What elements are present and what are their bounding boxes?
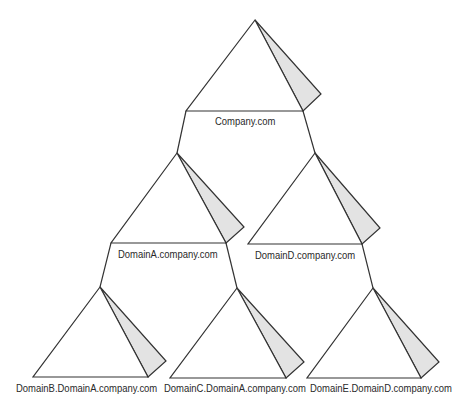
triangle-domainC	[170, 288, 304, 378]
label-domainC: DomainC.DomainA.company.com	[164, 382, 306, 394]
edge-domainD-domainE	[362, 244, 373, 288]
label-domainE: DomainE.DomainD.company.com	[310, 382, 452, 394]
triangle-domainD	[248, 153, 380, 244]
edge-company-domainA	[177, 111, 186, 153]
triangle-company	[186, 20, 321, 111]
domain-tree-diagram: Company.com DomainA.company.com DomainD.…	[0, 0, 466, 406]
edge-domainA-domainB	[100, 243, 111, 287]
label-domainD: DomainD.company.com	[255, 249, 355, 261]
triangle-domainA	[111, 153, 244, 243]
edge-company-domainD	[303, 111, 315, 153]
triangle-domainE	[307, 288, 439, 378]
triangle-domainB	[33, 287, 166, 377]
label-domainB: DomainB.DomainA.company.com	[16, 382, 157, 394]
diagram-graphics	[0, 0, 466, 406]
edge-domainA-domainC	[226, 243, 237, 288]
label-domainA: DomainA.company.com	[118, 248, 218, 260]
label-company: Company.com	[215, 115, 275, 127]
